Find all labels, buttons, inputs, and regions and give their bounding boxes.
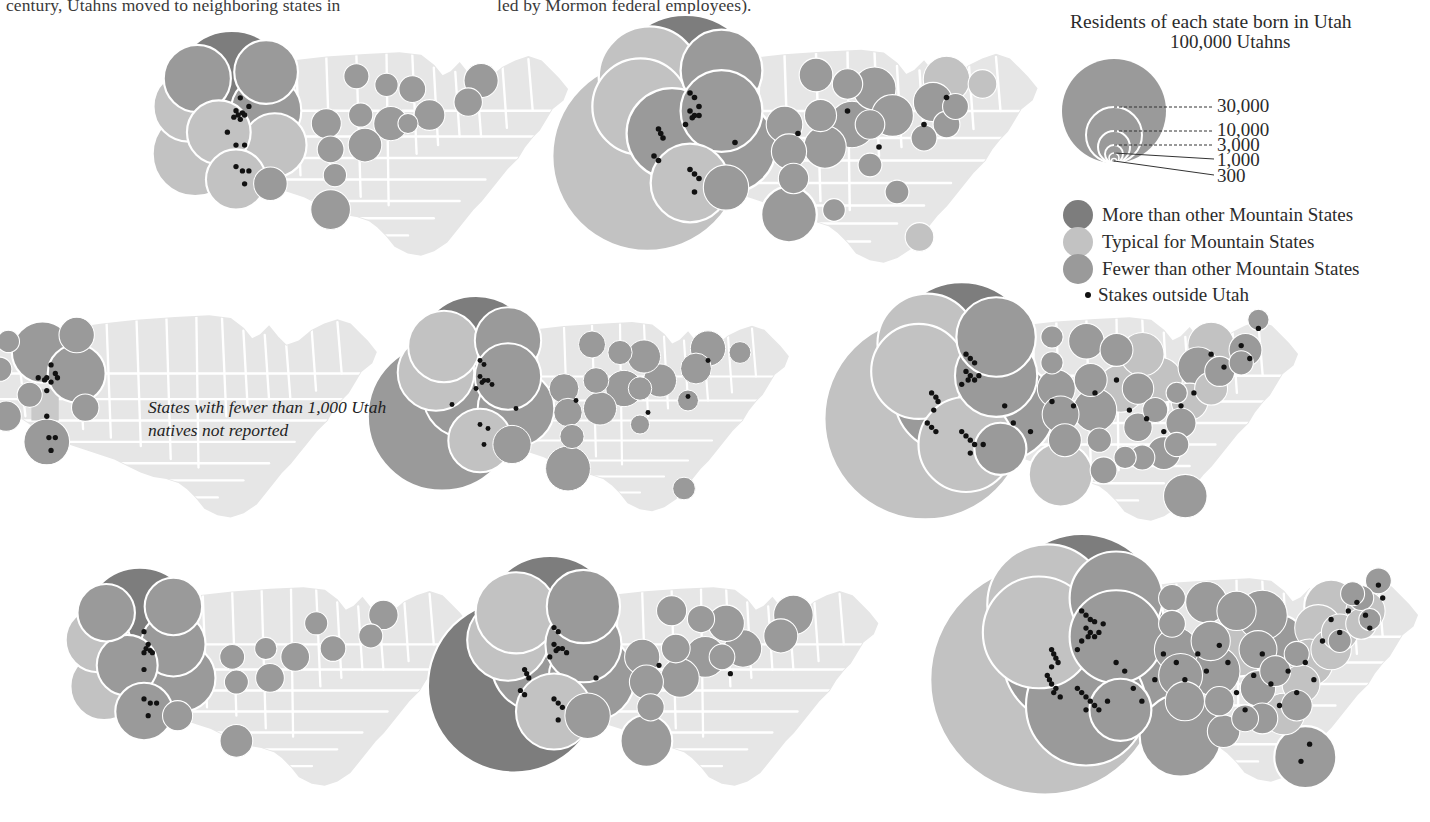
stake-dot: [48, 379, 53, 384]
stake-dot: [1242, 707, 1247, 712]
state-circle-CT: [1229, 351, 1253, 375]
state-circle-TX: [621, 715, 673, 767]
state-circle-MN: [799, 58, 833, 92]
stake-dot: [1092, 634, 1097, 639]
stake-dot: [1144, 416, 1149, 421]
stake-dot: [526, 675, 531, 680]
stake-dot: [1239, 343, 1244, 348]
state-circle-PA: [681, 353, 712, 384]
stake-dot: [514, 406, 519, 411]
stake-dot: [696, 104, 702, 110]
state-circle-MO: [661, 659, 700, 698]
stake-dot: [1303, 660, 1308, 665]
state-circle-IN: [398, 114, 418, 134]
stake-dot: [1101, 621, 1106, 626]
stake-dot: [1191, 390, 1196, 395]
stake-dot: [706, 358, 711, 363]
state-circle-TX: [546, 446, 591, 491]
state-circle-OH: [320, 636, 346, 662]
state-circle-LA: [1090, 457, 1117, 484]
stake-dot: [1221, 364, 1226, 369]
state-circle-PA: [359, 624, 383, 648]
state-circle-PA: [454, 88, 482, 116]
state-circle-VA: [911, 125, 937, 151]
stake-dot: [242, 112, 247, 117]
state-circle-MN: [1069, 324, 1105, 360]
stake-dot: [146, 713, 151, 718]
stake-dot: [959, 429, 964, 434]
stake-dot: [1049, 681, 1054, 686]
body-text-column-right: led by Mormon federal employees).: [497, 0, 752, 16]
stake-dot: [1079, 608, 1084, 613]
map-panel-r1c1: [150, 18, 580, 298]
stake-dot: [1002, 403, 1007, 408]
stake-dot: [233, 164, 238, 169]
state-circle-NM: [163, 701, 193, 731]
state-circle-IA: [1074, 364, 1107, 397]
state-circle-IA: [255, 637, 277, 659]
stake-dot: [551, 625, 556, 630]
stake-dot: [1011, 420, 1016, 425]
state-circle-WA: [0, 330, 20, 352]
state-circle-NM: [703, 165, 748, 210]
map-panel-r3c1: [60, 558, 480, 822]
state-circle-OK: [1048, 424, 1081, 457]
stake-dot: [486, 378, 491, 383]
state-circle-WY: [475, 343, 541, 409]
stake-dot: [1152, 677, 1157, 682]
stake-dot: [976, 373, 981, 378]
state-circle-WI: [375, 73, 398, 96]
stake-dot: [1161, 429, 1166, 434]
stake-dot: [696, 176, 702, 182]
stake-dot: [556, 717, 561, 722]
stake-dot: [1346, 608, 1351, 613]
stake-dot: [148, 700, 153, 705]
stake-dot: [1092, 390, 1097, 395]
state-circle-MN: [344, 64, 369, 89]
stake-dot: [150, 650, 155, 655]
stake-dot: [240, 168, 245, 173]
state-circle-MA: [968, 70, 997, 99]
stake-dot: [560, 705, 565, 710]
stake-dot: [1182, 677, 1187, 682]
stake-dot: [963, 352, 968, 357]
stake-dot: [450, 402, 455, 407]
stake-dot: [944, 95, 950, 101]
stake-dot: [921, 122, 927, 128]
state-circle-MI: [627, 340, 660, 373]
legend-scale-circles: [1062, 33, 1430, 201]
state-circle-WY: [681, 70, 763, 152]
stake-dot: [687, 167, 693, 173]
legend-swatch-typical-icon: [1063, 227, 1093, 257]
legend-circle-100000: [1062, 59, 1166, 163]
stake-dot: [687, 108, 693, 114]
stake-dot: [1376, 582, 1381, 587]
state-circle-NM: [254, 167, 288, 201]
us-map: [150, 18, 580, 298]
state-circle-SC: [1165, 432, 1189, 456]
stake-dot-icon: [1085, 292, 1091, 298]
stake-dot: [225, 130, 230, 135]
stake-dot: [1088, 699, 1093, 704]
stake-dot: [1096, 630, 1101, 635]
state-circle-WI: [1100, 333, 1133, 366]
legend-swatch-fewer-icon: [1063, 254, 1093, 284]
state-circle-NM: [493, 425, 531, 463]
state-circle-LA: [823, 199, 846, 222]
stake-dot: [233, 142, 238, 147]
stake-dot: [1085, 634, 1090, 639]
stake-dot: [154, 700, 159, 705]
stake-dot: [692, 171, 698, 177]
state-circle-TN: [630, 415, 649, 434]
stake-dot: [486, 426, 491, 431]
state-circle-NE: [220, 644, 245, 669]
stake-dot: [522, 692, 527, 697]
us-map: [1000, 548, 1430, 820]
legend-label-more: More than other Mountain States: [1102, 204, 1353, 226]
state-circle-MT: [234, 40, 298, 104]
stake-dot: [48, 362, 53, 367]
stake-dot: [1092, 703, 1097, 708]
stake-dot: [1083, 694, 1088, 699]
stake-dot: [560, 646, 565, 651]
state-circle-IA: [583, 368, 609, 394]
